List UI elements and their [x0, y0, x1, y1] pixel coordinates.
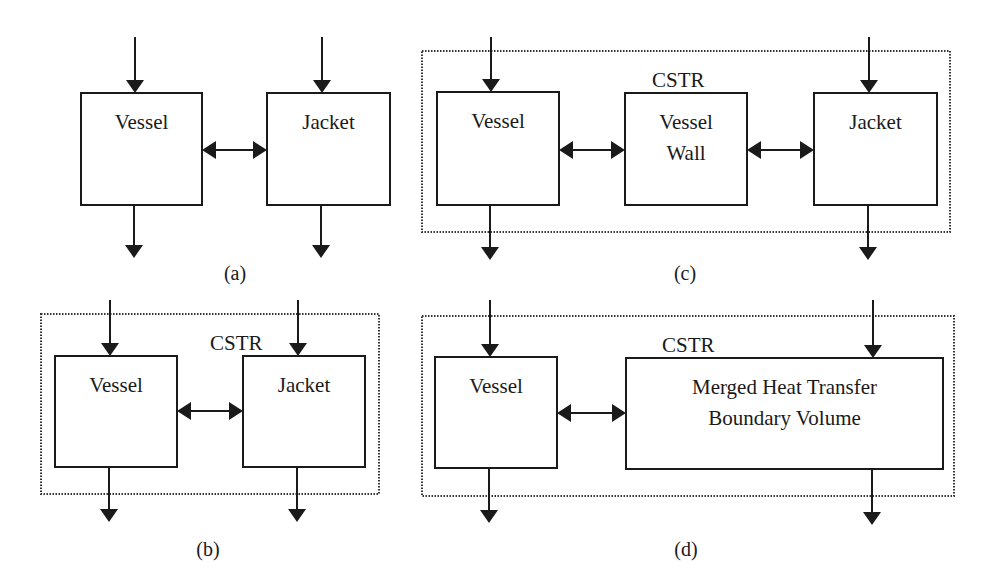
panel-caption: (c) — [674, 262, 696, 285]
panel-caption: (a) — [224, 262, 246, 285]
vessel-outlet-arrow-icon — [125, 205, 143, 258]
vessel-jacket-exchange-double-arrow-icon — [202, 141, 267, 159]
jacket-outlet-arrow-icon — [859, 205, 877, 260]
vessel-wall-label: Wall — [666, 141, 705, 165]
vessel-merged-exchange-double-arrow-icon — [557, 404, 626, 422]
jacket-label: Jacket — [302, 110, 355, 134]
merged-volume-label: Boundary Volume — [708, 406, 861, 430]
jacket-inlet-arrow-icon — [860, 37, 878, 93]
jacket-label: Jacket — [278, 373, 331, 397]
vessel-box: Vessel — [435, 357, 557, 468]
vessel-inlet-arrow-icon — [101, 300, 119, 356]
jacket-box: Jacket — [243, 356, 365, 467]
vessel-label: Vessel — [89, 373, 143, 397]
wall-jacket-exchange-double-arrow-icon — [747, 141, 814, 159]
vessel-outlet-arrow-icon — [100, 467, 118, 522]
vessel-inlet-arrow-icon — [481, 300, 499, 357]
panel-b: VesselJacketCSTR(b) — [41, 300, 379, 561]
vessel-box: Vessel — [437, 92, 559, 205]
vessel-label: Vessel — [471, 109, 525, 133]
vessel-box: Vessel — [55, 356, 177, 467]
vessel-wall-label: Vessel — [659, 110, 713, 134]
vessel-outlet-arrow-icon — [481, 205, 499, 260]
vessel-inlet-arrow-icon — [482, 37, 500, 92]
vessel-label: Vessel — [469, 374, 523, 398]
vessel-wall-box: VesselWall — [625, 93, 747, 205]
cstr-label: CSTR — [662, 333, 715, 357]
cstr-label: CSTR — [210, 331, 263, 355]
jacket-inlet-arrow-icon — [289, 300, 307, 356]
panel-c: VesselVesselWallJacketCSTR(c) — [422, 37, 950, 285]
panel-caption: (b) — [196, 538, 219, 561]
panel-a: VesselJacket(a) — [81, 37, 390, 285]
jacket-box: Jacket — [814, 93, 937, 205]
jacket-inlet-arrow-icon — [313, 37, 331, 93]
jacket-outlet-arrow-icon — [312, 205, 330, 258]
panel-d: VesselMerged Heat TransferBoundary Volum… — [422, 300, 954, 561]
vessel-wall-exchange-double-arrow-icon — [559, 141, 625, 159]
vessel-box: Vessel — [81, 93, 202, 205]
vessel-inlet-arrow-icon — [126, 37, 144, 93]
jacket-outlet-arrow-icon — [863, 469, 881, 525]
jacket-inlet-arrow-icon — [864, 300, 882, 358]
vessel-jacket-exchange-double-arrow-icon — [177, 402, 243, 420]
cstr-label: CSTR — [652, 68, 705, 92]
merged-volume-label: Merged Heat Transfer — [692, 375, 877, 399]
jacket-label: Jacket — [849, 110, 902, 134]
cstr-model-diagram: VesselJacket(a)VesselJacketCSTR(b)Vessel… — [0, 0, 990, 588]
panel-caption: (d) — [674, 538, 697, 561]
merged-volume-box: Merged Heat TransferBoundary Volume — [626, 358, 943, 469]
jacket-box: Jacket — [267, 93, 390, 205]
vessel-label: Vessel — [115, 110, 169, 134]
